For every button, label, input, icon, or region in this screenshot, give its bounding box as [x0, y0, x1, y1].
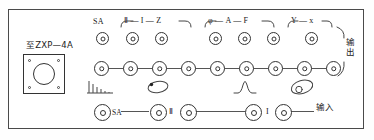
mid-jack-9[interactable]: [326, 61, 341, 76]
bus-wire: [136, 68, 153, 69]
signal-wire: [195, 111, 245, 112]
group-label-sa: SA: [93, 17, 104, 26]
bus-wire: [165, 68, 182, 69]
connector-bore: [33, 63, 55, 85]
signal-wire: [121, 111, 149, 112]
bus-wire: [310, 68, 327, 69]
top-jack-i[interactable]: [155, 32, 168, 45]
bot-jack-ii-in[interactable]: [150, 104, 167, 121]
mid-jack-7[interactable]: [268, 61, 283, 76]
bot-jack-ii-out[interactable]: [180, 104, 197, 121]
bottom-label-ii: Ⅱ: [169, 107, 173, 116]
top-jack-ii[interactable]: [126, 32, 139, 45]
bus-wire: [223, 68, 240, 69]
screw-icon: [57, 59, 60, 62]
bus-wire: [281, 68, 298, 69]
top-jack-sa[interactable]: [96, 32, 109, 45]
bus-wire: [252, 68, 269, 69]
mid-jack-2[interactable]: [123, 61, 138, 76]
top-jack-a[interactable]: [267, 32, 280, 45]
device-label: 至ZXP—4A: [26, 41, 73, 50]
input-label: 输入: [316, 103, 334, 112]
top-jack-f[interactable]: [305, 32, 318, 45]
bot-jack-i-in[interactable]: [245, 104, 262, 121]
signal-wire: [290, 111, 314, 112]
screw-icon: [28, 59, 31, 62]
bottom-label-i: I: [266, 107, 269, 116]
mid-jack-4[interactable]: [181, 61, 196, 76]
screw-icon: [28, 86, 31, 89]
output-label: 输出: [344, 38, 354, 58]
bus-wire: [194, 68, 211, 69]
group-label-yx: Y — x: [291, 16, 313, 25]
bot-jack-sa[interactable]: [94, 104, 111, 121]
top-jack-z[interactable]: [209, 32, 222, 45]
group-label-iiz: Ⅱ — I — Z: [124, 16, 161, 25]
mid-jack-5[interactable]: [210, 61, 225, 76]
mid-jack-1[interactable]: [94, 61, 109, 76]
top-jack-phi[interactable]: [238, 32, 251, 45]
screw-icon: [57, 86, 60, 89]
mid-jack-3[interactable]: [152, 61, 167, 76]
mid-jack-8[interactable]: [297, 61, 312, 76]
group-label-af: φ — A — F: [208, 16, 248, 25]
mid-jack-6[interactable]: [239, 61, 254, 76]
bus-wire: [107, 68, 124, 69]
zxp-4a-connector[interactable]: [23, 54, 65, 94]
instrument-panel-diagram: 至ZXP—4A SA Ⅱ — I — Z φ — A — F Y — x 输出 …: [0, 0, 374, 140]
bot-jack-i-out[interactable]: [275, 104, 292, 121]
bottom-label-sa: SA: [112, 108, 122, 117]
